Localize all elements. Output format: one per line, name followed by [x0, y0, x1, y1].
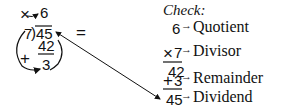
- arrow-icon: →: [181, 90, 192, 101]
- plus-sign: +: [163, 72, 173, 89]
- arrow-icon: →: [181, 20, 192, 31]
- check-label: Divisor: [193, 43, 241, 59]
- check-title: Check:: [163, 3, 205, 18]
- multiply-sign: ×: [163, 45, 173, 62]
- check-label: Remainder: [193, 70, 263, 86]
- multiply-sign: ×: [20, 6, 30, 23]
- check-value: 6: [172, 21, 180, 36]
- arrow-icon: →: [181, 71, 192, 82]
- division-check-diagram: × 6 7 ) 45 + 42 3 = Check: 6 → Quotient …: [0, 0, 283, 110]
- plus-sign: +: [20, 50, 30, 67]
- product: 42: [38, 38, 55, 53]
- check-label: Dividend: [193, 89, 253, 105]
- check-label: Quotient: [193, 19, 249, 35]
- arrow-icon: →: [181, 44, 192, 55]
- quotient: 6: [40, 5, 48, 20]
- remainder: 3: [42, 57, 50, 72]
- equals-sign: =: [76, 24, 86, 41]
